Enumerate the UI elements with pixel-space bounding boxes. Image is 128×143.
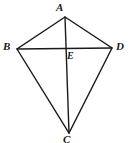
vertex-label-b: B	[3, 41, 10, 52]
diagonal-ac	[65, 17, 69, 133]
vertex-label-c: C	[63, 134, 70, 143]
vertex-label-e: E	[67, 50, 74, 61]
diagonal-bd	[17, 48, 112, 49]
geometry-figure: A B D E C	[0, 0, 128, 143]
kite-diagram-svg	[0, 0, 128, 143]
vertex-label-d: D	[116, 41, 124, 52]
vertex-label-a: A	[56, 2, 63, 13]
kite-outline	[17, 17, 112, 133]
